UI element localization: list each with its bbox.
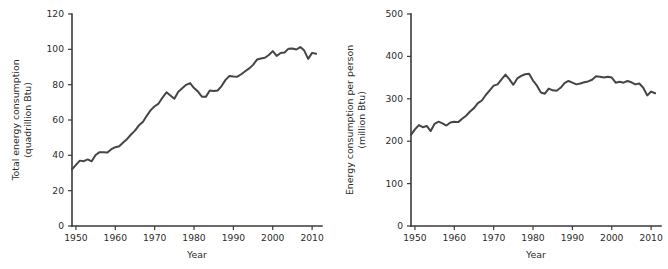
x-tick-label: 1950 <box>403 232 427 243</box>
left-chart-svg: 020406080100120 195019601970198019902000… <box>0 0 334 269</box>
right-chart-svg: 0100200300400500 19501960197019801990200… <box>334 0 668 269</box>
x-tick-label: 2000 <box>261 232 285 243</box>
left-y-axis-title-line1: Total energy consumption <box>10 59 21 181</box>
y-tick-label: 60 <box>52 114 64 125</box>
right-y-axis-title-line2: (million Btu) <box>356 91 367 149</box>
right-y-ticks: 0100200300400500 <box>385 8 411 231</box>
y-tick-label: 0 <box>58 220 64 231</box>
y-tick-label: 40 <box>52 149 64 160</box>
left-x-ticks: 1950196019701980199020002010 <box>64 226 324 243</box>
x-tick-label: 1990 <box>561 232 585 243</box>
x-tick-label: 1980 <box>521 232 545 243</box>
x-tick-label: 1970 <box>143 232 167 243</box>
x-tick-label: 2010 <box>639 232 663 243</box>
right-x-axis-title: Year <box>525 249 546 260</box>
left-data-series-line <box>72 47 316 169</box>
x-tick-label: 1950 <box>64 232 88 243</box>
y-tick-label: 80 <box>52 79 64 90</box>
figure-container: 020406080100120 195019601970198019902000… <box>0 0 668 269</box>
y-tick-label: 100 <box>46 43 64 54</box>
y-tick-label: 20 <box>52 185 64 196</box>
left-y-axis-title-line2: (quadrillion Btu) <box>22 82 33 158</box>
chart-panel-per-person-energy: 0100200300400500 19501960197019801990200… <box>334 0 668 269</box>
y-tick-label: 0 <box>397 220 403 231</box>
right-data-series-line <box>411 74 655 135</box>
x-tick-label: 1960 <box>443 232 467 243</box>
y-tick-label: 300 <box>385 93 403 104</box>
x-tick-label: 1960 <box>104 232 128 243</box>
y-tick-label: 120 <box>46 8 64 19</box>
y-tick-label: 200 <box>385 135 403 146</box>
y-tick-label: 100 <box>385 178 403 189</box>
left-axes <box>72 14 322 226</box>
left-x-axis-title: Year <box>186 249 207 260</box>
right-y-axis-title-line1: Energy consumption per person <box>344 45 355 195</box>
x-tick-label: 2010 <box>300 232 324 243</box>
x-tick-label: 2000 <box>600 232 624 243</box>
x-tick-label: 1970 <box>482 232 506 243</box>
y-tick-label: 400 <box>385 50 403 61</box>
right-x-ticks: 1950196019701980199020002010 <box>403 226 663 243</box>
y-tick-label: 500 <box>385 8 403 19</box>
x-tick-label: 1990 <box>222 232 246 243</box>
x-tick-label: 1980 <box>182 232 206 243</box>
chart-panel-total-energy: 020406080100120 195019601970198019902000… <box>0 0 334 269</box>
right-axes <box>411 14 661 226</box>
left-y-ticks: 020406080100120 <box>46 8 72 231</box>
